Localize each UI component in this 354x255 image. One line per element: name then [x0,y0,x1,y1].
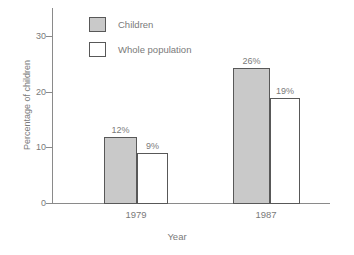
bar-1979-whole-population [137,153,168,204]
y-tick-mark-0 [46,203,52,204]
legend-swatch-children-icon [89,17,106,32]
legend-item-children: Children [89,14,191,34]
legend: Children Whole population [89,14,191,64]
bar-label-1979-whole-population: 9% [127,142,178,151]
x-tick-label-1987: 1987 [241,210,291,220]
bar-label-1987-children: 26% [225,57,278,66]
y-axis-title: Percentage of children [22,30,32,180]
y-tick-label-10: 10 [36,143,46,152]
bar-label-1979-children: 12% [94,126,147,135]
y-tick-label-0: 0 [41,199,46,208]
y-axis-line [52,8,53,204]
y-tick-mark-30 [46,36,52,37]
x-axis-title: Year [0,231,354,242]
bar-chart: 30 20 10 0 Percentage of children 12% 9%… [0,0,354,255]
y-tick-mark-10 [46,147,52,148]
y-tick-mark-20 [46,92,52,93]
legend-label-children: Children [118,19,153,30]
bar-1987-whole-population [270,98,300,204]
legend-label-whole-population: Whole population [118,44,191,55]
bar-label-1987-whole-population: 19% [260,87,310,96]
legend-item-whole-population: Whole population [89,39,191,59]
x-tick-label-1979: 1979 [111,210,161,220]
y-tick-label-20: 20 [36,88,46,97]
legend-swatch-whole-population-icon [89,42,106,57]
y-tick-label-30: 30 [36,32,46,41]
